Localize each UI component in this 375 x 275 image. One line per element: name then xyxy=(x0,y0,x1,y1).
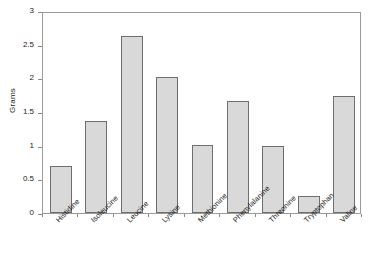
plot-area xyxy=(42,12,361,214)
bar xyxy=(227,101,249,213)
bar xyxy=(121,36,143,213)
x-tick-mark xyxy=(219,214,220,217)
y-tick-mark xyxy=(38,214,42,215)
x-tick-mark xyxy=(113,214,114,217)
x-tick-mark xyxy=(148,214,149,217)
y-tick-label: 1.5 xyxy=(10,108,34,116)
x-tick-mark xyxy=(42,214,43,217)
x-tick-mark xyxy=(184,214,185,217)
y-tick-label: 2.5 xyxy=(10,41,34,49)
bar-chart: Grams 00.511.522.53 HistidineIsoleucineL… xyxy=(0,0,375,275)
y-tick-mark xyxy=(38,147,42,148)
bar xyxy=(333,96,355,213)
y-tick-label: 0 xyxy=(10,209,34,217)
y-tick-mark xyxy=(38,180,42,181)
x-tick-mark xyxy=(77,214,78,217)
x-tick-mark xyxy=(290,214,291,217)
y-tick-mark xyxy=(38,46,42,47)
x-tick-mark xyxy=(326,214,327,217)
bars-layer xyxy=(43,13,360,213)
x-tick-mark xyxy=(255,214,256,217)
y-tick-mark xyxy=(38,79,42,80)
y-tick-label: 3 xyxy=(10,7,34,15)
x-tick-mark xyxy=(361,214,362,217)
y-tick-mark xyxy=(38,12,42,13)
bar xyxy=(85,121,107,213)
y-tick-mark xyxy=(38,113,42,114)
x-axis-tick-labels: HistidineIsoleucineLeucineLysineMethioni… xyxy=(42,214,361,275)
y-tick-label: 0.5 xyxy=(10,175,34,183)
y-tick-label: 1 xyxy=(10,142,34,150)
bar xyxy=(156,77,178,213)
y-axis-tick-labels: 00.511.522.53 xyxy=(8,0,34,275)
y-tick-label: 2 xyxy=(10,74,34,82)
